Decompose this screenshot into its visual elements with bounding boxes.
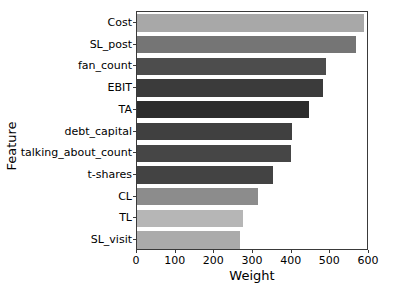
y-axis-tick-mark (133, 87, 136, 88)
y-axis-tick-label: fan_count (12, 59, 132, 72)
y-axis-tick-label: SL_visit (12, 233, 132, 246)
y-axis-tick-label: t-shares (12, 167, 132, 180)
x-axis-tick-label: 600 (358, 254, 379, 267)
y-axis-tick-mark (133, 196, 136, 197)
y-axis-tick-label: CL (12, 189, 132, 202)
x-axis-tick-mark (175, 250, 176, 253)
y-axis-tick-mark (133, 44, 136, 45)
y-axis-tick-label: EBIT (12, 81, 132, 94)
x-axis-tick-mark (291, 250, 292, 253)
x-axis-tick-mark (213, 250, 214, 253)
y-axis-tick-mark (133, 217, 136, 218)
y-axis-tick-mark (133, 65, 136, 66)
bar (137, 188, 258, 205)
x-axis-tick-mark (136, 250, 137, 253)
bar (137, 58, 326, 75)
y-axis-tick-mark (133, 109, 136, 110)
bar (137, 101, 309, 118)
y-axis-tick-label: Cost (12, 15, 132, 28)
bar (137, 123, 292, 140)
plot-area (136, 11, 368, 250)
bar-series (137, 12, 367, 249)
bar (137, 14, 364, 31)
x-axis-tick-label: 100 (164, 254, 185, 267)
y-axis-tick-label: TA (12, 102, 132, 115)
y-axis-tick-mark (133, 22, 136, 23)
x-axis-tick-label: 300 (242, 254, 263, 267)
x-axis-tick-label: 500 (319, 254, 340, 267)
y-axis-tick-label: TL (12, 211, 132, 224)
y-axis-tick-mark (133, 131, 136, 132)
y-axis-tick-mark (133, 239, 136, 240)
y-axis-tick-label: debt_capital (12, 124, 132, 137)
x-axis-tick-mark (252, 250, 253, 253)
y-axis-tick-mark (133, 152, 136, 153)
x-axis-tick-label: 400 (280, 254, 301, 267)
y-axis-tick-label: talking_about_count (12, 146, 132, 159)
bar (137, 145, 291, 162)
x-axis-tick-labels: 0100200300400500600 (136, 250, 368, 270)
bar-chart-figure: Feature CostSL_postfan_countEBITTAdebt_c… (0, 0, 393, 292)
bar (137, 79, 323, 96)
y-axis-tick-label: SL_post (12, 37, 132, 50)
x-axis-tick-label: 200 (203, 254, 224, 267)
x-axis-tick-mark (368, 250, 369, 253)
bar (137, 36, 356, 53)
bar (137, 210, 243, 227)
x-axis-tick-mark (329, 250, 330, 253)
y-axis-tick-labels: CostSL_postfan_countEBITTAdebt_capitalta… (10, 11, 132, 250)
x-axis-title: Weight (136, 268, 368, 283)
bar (137, 166, 273, 183)
bar (137, 231, 240, 248)
y-axis-tick-mark (133, 174, 136, 175)
x-axis-tick-label: 0 (133, 254, 140, 267)
